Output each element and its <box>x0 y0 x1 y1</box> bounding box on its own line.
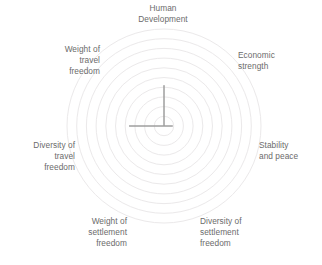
axis-label-weight-of-settlement-freedom: Weight of settlement freedom <box>32 216 127 250</box>
radar-chart: Human Development Economic strength Stab… <box>0 0 322 265</box>
axis-label-stability-and-peace: Stability and peace <box>259 140 321 162</box>
axis-label-diversity-of-settlement-freedom: Diversity of settlement freedom <box>200 216 290 250</box>
axis-label-economic-strength: Economic strength <box>238 50 320 72</box>
axis-label-weight-of-travel-freedom: Weight of travel freedom <box>20 44 100 78</box>
axis-label-human-development: Human Development <box>110 3 216 25</box>
axis-label-diversity-of-travel-freedom: Diversity of travel freedom <box>3 140 75 174</box>
